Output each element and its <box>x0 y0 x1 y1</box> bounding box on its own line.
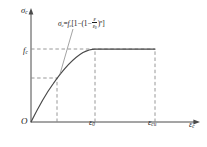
x-axis <box>31 120 200 125</box>
x-tick-label-epscu: εcu <box>148 118 156 127</box>
y-tick-label-fc: fc <box>23 46 28 55</box>
x-axis-label: εc <box>189 120 195 129</box>
stress-strain-figure: σc fc O ε0 εcu εc σc=fc[1−(1−εε0)n] <box>0 0 207 147</box>
y-axis <box>29 8 34 122</box>
constitutive-equation-label: σc=fc[1−(1−εε0)n] <box>58 16 105 31</box>
strain-ratio-fraction: εε0 <box>92 16 97 31</box>
y-axis-label: σc <box>21 6 28 15</box>
x-tick-label-eps0: ε0 <box>89 118 95 127</box>
origin-label: O <box>21 117 28 126</box>
stress-strain-curve <box>31 49 155 122</box>
guide-lines <box>31 49 155 122</box>
